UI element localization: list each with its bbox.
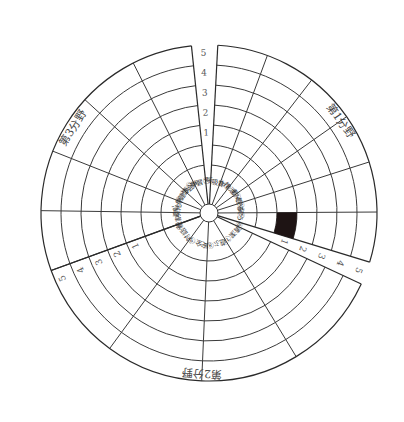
- scale-tick-label: 1: [130, 241, 141, 250]
- item-label: 学習⑮: [189, 175, 212, 190]
- scale-tick-label: 5: [353, 266, 364, 275]
- scale-tick-label: 4: [201, 67, 207, 77]
- scale-tick-label: 3: [316, 252, 327, 261]
- field-titles: 第1分野第2分野第3分野: [56, 100, 358, 381]
- center-hub: [200, 204, 218, 222]
- field-title: 第1分野: [324, 100, 358, 141]
- scale-tick-label: 3: [202, 87, 208, 97]
- ring-arc: [61, 66, 194, 264]
- scale-tick-label: 5: [57, 273, 69, 283]
- field-title: 第2分野: [182, 366, 223, 382]
- scale-tick-label: 2: [202, 107, 208, 117]
- scale-tick-label: 1: [203, 127, 209, 137]
- scale-tick-label: 2: [297, 245, 308, 254]
- shaded-cell: [274, 212, 297, 238]
- scale-tick-label: 3: [93, 257, 105, 267]
- scale-tick-label: 2: [111, 249, 122, 258]
- shaded-cells: [274, 212, 297, 238]
- scale-tick-label: 1: [278, 237, 289, 246]
- field-title: 第3分野: [56, 107, 89, 148]
- scale-tick-label: 4: [75, 265, 87, 275]
- radial-assessment-wheel: 呼吸①食②排泄③動く④眠る⑤装う⑥清潔⑦遊ぶ⑧安全⑨対話⑩役割⑪変化⑫心身健康⑬…: [0, 0, 404, 422]
- scale-tick-label: 5: [200, 47, 206, 57]
- scale-tick-label: 4: [334, 259, 345, 268]
